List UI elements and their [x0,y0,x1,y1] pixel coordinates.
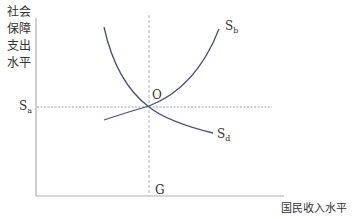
sa-label: Sa [19,99,32,118]
y-axis-label-line-2: 保障 [4,21,34,38]
y-axis-label-line-1: 社会 [4,4,34,21]
diagram-canvas [0,0,352,219]
y-axis-label-line-4: 水平 [4,55,34,72]
sb-label: Sb [225,19,238,38]
curve-sd [104,27,213,133]
y-axis-label: 社会 保障 支出 水平 [4,4,34,72]
sd-label: Sd [217,127,230,146]
x-axis-label: 国民收入水平 [281,202,347,216]
vertical-line-label-g: G [155,183,165,197]
y-axis-label-line-3: 支出 [4,38,34,55]
intersection-label-o: O [152,88,162,102]
sa-label-sub: a [27,106,32,115]
sb-label-sub: b [233,26,238,35]
sd-label-main: S [217,127,225,141]
sb-label-main: S [225,19,233,33]
sa-label-main: S [19,99,27,113]
sd-label-sub: d [225,134,230,143]
